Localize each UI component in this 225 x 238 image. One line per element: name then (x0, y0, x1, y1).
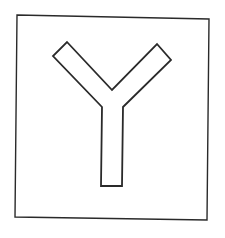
diagram-canvas: Y (0, 0, 225, 238)
y-symbol-figure: Y (0, 0, 225, 238)
square-frame (15, 15, 209, 220)
letter-y-outline (53, 42, 171, 186)
